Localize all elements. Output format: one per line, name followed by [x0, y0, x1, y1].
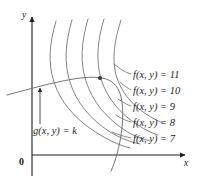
- leader-line-11: [114, 64, 131, 74]
- leader-line-9: [118, 99, 131, 106]
- f-level-curve-10-label: f(x, y) = 10: [133, 86, 180, 97]
- tangency-point: [98, 76, 102, 80]
- f-level-curve-7-label: f(x, y) = 7: [133, 134, 175, 145]
- y-axis-label: y: [22, 11, 26, 21]
- f-level-curve-11-label: f(x, y) = 11: [133, 70, 180, 81]
- g-level-curve-label: g(x, y) = k: [33, 126, 77, 137]
- f-level-curve-8: [66, 20, 140, 144]
- origin-label: 0: [19, 157, 24, 167]
- f-level-curve-8-label: f(x, y) = 8: [133, 118, 175, 129]
- lagrange-multiplier-figure: y x 0 g(x, y) = k f(x, y) = 11 f(x, y) =…: [0, 0, 200, 181]
- x-axis-label: x: [184, 159, 188, 169]
- f-level-curve-9-label: f(x, y) = 9: [133, 102, 175, 113]
- label-leader-lines: [112, 64, 131, 138]
